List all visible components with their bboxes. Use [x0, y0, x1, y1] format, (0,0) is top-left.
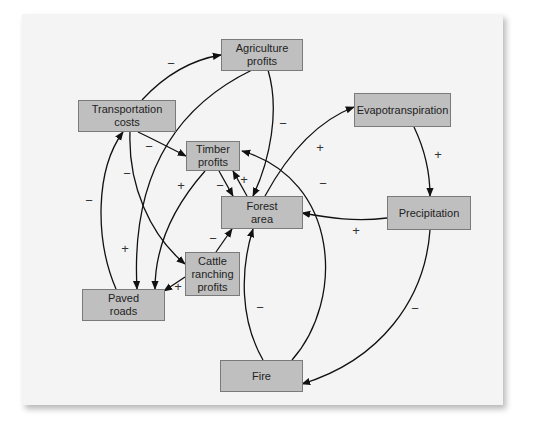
arrow-cattle-to-forest [216, 229, 232, 252]
sign-fire-forest: − [256, 301, 264, 314]
sign-precip-forest: + [352, 224, 360, 237]
node-fire: Fire [220, 360, 303, 392]
arrow-agriculture-to-forest [253, 70, 273, 196]
node-forest-area: Forest area [221, 196, 303, 229]
sign-fire-timber: − [319, 177, 327, 190]
sign-forest-timber: + [240, 173, 248, 186]
sign-cattle-forest: − [209, 232, 217, 245]
sign-paved-transport: − [85, 194, 93, 207]
sign-precip-fire: − [411, 302, 419, 315]
sign-transport-timber: − [145, 140, 153, 153]
node-evapotranspiration: Evapotranspiration [354, 93, 451, 127]
sign-timber-paved: + [177, 179, 185, 192]
sign-cattle-paved: + [174, 280, 182, 293]
sign-agri-forest: − [279, 117, 287, 130]
arrow-fire-to-forest [244, 229, 263, 360]
sign-timber-forest: − [216, 179, 224, 192]
arrow-evapo-to-precip [414, 127, 430, 196]
arrow-paved-to-transport [101, 132, 123, 289]
arrow-transport-to-agriculture [142, 55, 221, 100]
node-cattle-ranching-profits: Cattle ranching profits [185, 252, 240, 296]
sign-transport-agri: − [167, 57, 175, 70]
node-paved-roads: Paved roads [82, 289, 165, 321]
sign-evapo-precip: + [434, 148, 442, 161]
node-transportation-costs: Transportation costs [78, 100, 176, 132]
diagram-canvas: Agriculture profits Transportation costs… [0, 0, 537, 434]
node-timber-profits: Timber profits [186, 141, 240, 171]
arrow-fire-to-timber [242, 151, 326, 360]
node-agriculture-profits: Agriculture profits [221, 39, 303, 71]
node-precipitation: Precipitation [387, 196, 471, 230]
sign-forest-evapo: + [316, 141, 324, 154]
sign-agri-paved: + [121, 242, 129, 255]
sign-transport-cattle: − [123, 167, 131, 180]
